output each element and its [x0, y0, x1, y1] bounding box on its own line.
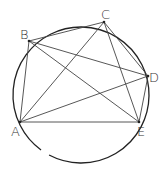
segment-ab — [20, 41, 29, 122]
vertex-a — [19, 121, 22, 124]
vertex-label-b: B — [20, 27, 29, 42]
segment-be — [29, 41, 139, 122]
diagram-canvas: ABCDE — [0, 0, 167, 170]
vertex-label-c: C — [101, 7, 110, 22]
circumcircle — [13, 27, 149, 163]
vertex-e — [138, 121, 141, 124]
vertex-label-a: A — [11, 124, 20, 139]
segment-bd — [29, 41, 148, 76]
vertex-label-d: D — [149, 70, 159, 85]
segment-bc — [29, 22, 104, 41]
cyclic-pentagon-diagram: ABCDE — [0, 0, 167, 170]
segment-cd — [104, 22, 148, 76]
vertex-label-e: E — [137, 124, 145, 139]
